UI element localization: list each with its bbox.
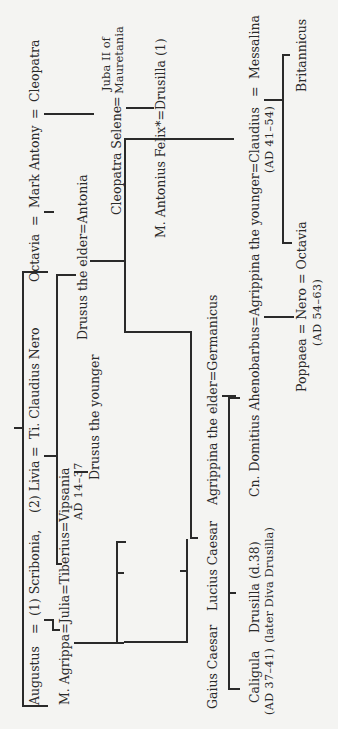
person-drusus-younger: Drusus the younger: [88, 355, 102, 480]
marriage-sign: =: [28, 216, 42, 226]
person-lucius-caesar: Lucius Caesar: [206, 521, 220, 611]
descent-line: [116, 572, 124, 574]
descent-line: [228, 592, 236, 594]
caligula-reign: (AD 37–41): [263, 648, 277, 715]
descent-line: [282, 54, 284, 244]
descent-line: [228, 397, 240, 399]
descent-line: [186, 539, 188, 643]
marriage-sign: =: [28, 447, 42, 457]
family-tree-diagram: Augustus = (1) Scribonia, (2) Livia = Ti…: [0, 0, 338, 729]
person-augustus: Augustus: [28, 646, 42, 705]
person-mark-antony: Mark Antony: [28, 125, 42, 208]
descent-line: [124, 331, 190, 333]
descent-line: [74, 642, 118, 644]
descent-line: [56, 274, 76, 276]
drusilla-note: (later Diva Drusilla): [263, 527, 275, 643]
claudius-reign: (AD 41–54): [263, 106, 277, 173]
descent-line: [90, 260, 126, 262]
descent-line: [190, 331, 192, 539]
descent-line: [44, 211, 54, 213]
descent-line: [282, 242, 292, 244]
person-drusilla: Drusilla (d.38): [248, 541, 262, 633]
person-scribonia: (1) Scribonia,: [28, 530, 42, 616]
descent-line: [124, 138, 126, 333]
descent-line: [264, 99, 284, 101]
person-agrippina-elder-germanicus: Agrippina the elder=Germanicus: [206, 295, 220, 505]
person-britannicus: Britannicus: [295, 19, 309, 92]
person-drusus-elder-antonia: Drusus the elder=Antonia: [76, 174, 90, 340]
person-caligula: Caligula: [248, 650, 262, 703]
descent-line: [282, 54, 290, 56]
person-octavia: Octavia: [28, 234, 42, 282]
descent-line: [116, 642, 124, 644]
person-messalina: Messalina: [248, 15, 262, 79]
bracket-line: [22, 271, 24, 707]
person-cleopatra-selene: Cleopatra Selene: [110, 106, 124, 215]
descent-line: [44, 113, 94, 115]
person-juba-ii: Juba II of: [100, 37, 112, 91]
descent-line: [180, 570, 188, 572]
descent-line: [116, 541, 118, 644]
marriage-sign: =: [28, 624, 42, 634]
descent-line: [126, 107, 154, 109]
descent-line: [124, 138, 234, 140]
person-juba-ii-realm: Mauretania: [113, 26, 125, 94]
descent-line: [264, 316, 294, 318]
descent-line: [74, 471, 88, 473]
descent-line: [190, 537, 198, 539]
descent-line: [228, 397, 230, 690]
marriage-sign: =: [248, 87, 262, 97]
descent-line: [232, 138, 234, 140]
bracket-line: [22, 705, 48, 707]
descent-line: [124, 641, 188, 643]
marriage-sign: =: [110, 97, 124, 107]
marriage-sign: =: [28, 109, 42, 119]
person-poppaea-nero-octavia: Poppaea = Nero = Octavia: [295, 221, 309, 392]
person-gaius-caesar: Gaius Caesar: [206, 625, 220, 709]
person-ti-claudius-nero: Ti. Claudius Nero: [28, 327, 42, 439]
person-cleopatra: Cleopatra: [28, 40, 42, 102]
person-agrippa-julia-tiberius-vipsania: M. Agrippa=Julia=Tiberius=Vipsania: [58, 468, 72, 705]
nero-reign: (AD 54–63): [311, 279, 325, 346]
descent-line: [228, 688, 240, 690]
descent-line: [116, 541, 118, 543]
bracket-line: [14, 427, 22, 429]
person-ahenobarbus-agrippina-claudius: Cn. Domitius Ahenobarbus=Agrippina the y…: [248, 107, 262, 497]
person-livia: (2) Livia: [28, 461, 42, 514]
